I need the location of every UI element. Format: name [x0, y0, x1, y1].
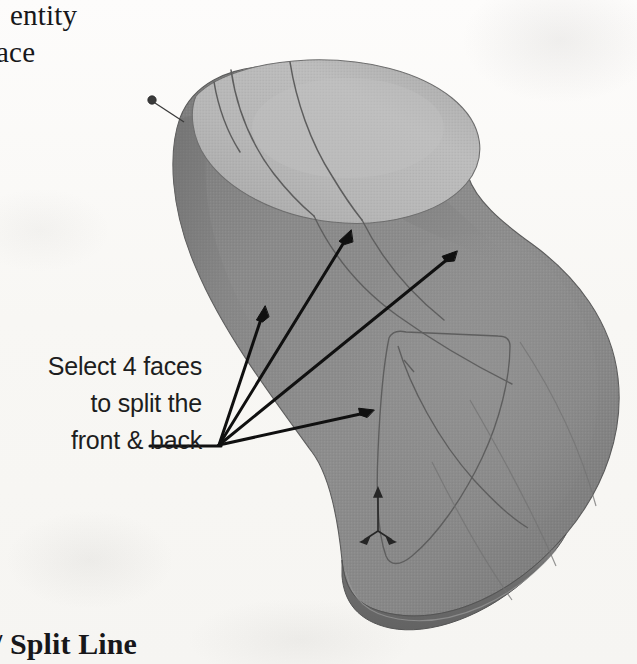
- callout-line-2: to split the: [6, 385, 202, 422]
- pin-leader-line: [155, 103, 184, 122]
- top-face-sheen: [252, 78, 444, 178]
- callout-line-3: front & back: [6, 422, 202, 459]
- pin-dot: [148, 96, 156, 104]
- top-leader-pin: [148, 96, 184, 122]
- cad-model-viewport: [0, 0, 637, 664]
- figure-page: entity ace Select 4 faces to split the f…: [0, 0, 637, 664]
- callout-line-1: Select 4 faces: [6, 348, 202, 385]
- top-text-entity: entity: [10, 0, 77, 34]
- figure-caption: / Split Line: [0, 627, 137, 661]
- body-highlight: [342, 234, 598, 550]
- callout-text-block: Select 4 faces to split the front & back: [6, 348, 202, 459]
- top-text-face-fragment: ace: [0, 33, 35, 71]
